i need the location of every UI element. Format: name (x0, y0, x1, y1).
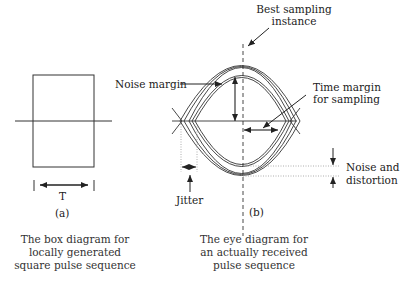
time-margin-line1: Time margin (313, 81, 381, 93)
panel-label-b: (b) (249, 206, 264, 218)
best-sampling-line1: Best sampling (256, 3, 332, 15)
caption-eye-diagram: The eye diagram for an actually received… (188, 233, 320, 272)
caption-a-line3: square pulse sequence (5, 259, 145, 272)
noise-distortion-line2: distortion (346, 174, 400, 187)
time-margin-line2: for sampling (313, 93, 381, 105)
box-diagram (15, 75, 112, 191)
noise-distortion-line1: Noise and (346, 161, 400, 174)
caption-a-line1: The box diagram for (5, 233, 145, 246)
panel-label-a: (a) (55, 207, 69, 219)
caption-box-diagram: The box diagram for locally generated sq… (5, 233, 145, 272)
eye-annotations (180, 28, 340, 192)
eye-diagram (172, 44, 300, 236)
noise-distortion-label: Noise and distortion (346, 161, 400, 187)
jitter-label: Jitter (176, 194, 203, 206)
period-label: T (59, 190, 66, 202)
caption-b-line3: pulse sequence (188, 259, 320, 272)
caption-a-line2: locally generated (5, 246, 145, 259)
caption-b-line1: The eye diagram for (188, 233, 320, 246)
diagram-canvas: T (a) Best sampling instance Noise margi… (0, 0, 400, 292)
best-sampling-line2: instance (256, 15, 332, 27)
caption-b-line2: an actually received (188, 246, 320, 259)
time-margin-label: Time margin for sampling (313, 81, 381, 105)
best-sampling-label: Best sampling instance (256, 3, 332, 27)
noise-margin-label: Noise margin (115, 78, 187, 90)
